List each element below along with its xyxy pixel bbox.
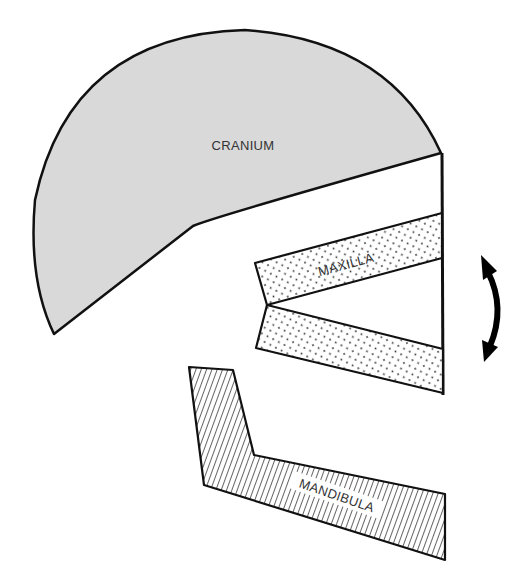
- curved-double-arrow-icon: [481, 255, 498, 362]
- jaw-diagram: CRANIUM MAXILLA MANDIBULA: [0, 0, 531, 573]
- maxilla-upper: MAXILLA: [255, 213, 442, 305]
- maxilla-lower: [256, 305, 443, 393]
- cranium: CRANIUM: [34, 30, 441, 334]
- mandibula: MANDIBULA: [189, 367, 445, 560]
- cranium-label: CRANIUM: [212, 138, 275, 153]
